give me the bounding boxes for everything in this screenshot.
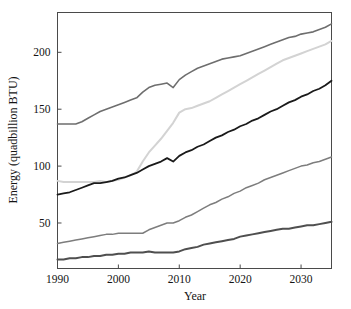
- y-tick-label: 100: [33, 160, 51, 172]
- chart-background: [0, 0, 351, 309]
- y-tick-label: 50: [39, 217, 51, 229]
- x-tick-label: 2030: [290, 273, 313, 285]
- x-axis-title: Year: [184, 289, 206, 303]
- x-tick-label: 1990: [46, 273, 69, 285]
- chart-canvas: 50100150200 19902000201020202030 Energy …: [0, 0, 351, 309]
- x-tick-label: 2000: [107, 273, 130, 285]
- x-tick-label: 2020: [229, 273, 252, 285]
- y-tick-label: 200: [33, 46, 51, 58]
- y-tick-label: 150: [33, 103, 51, 115]
- y-axis-title: Energy (quadbillion BTU): [6, 76, 20, 203]
- x-tick-label: 2010: [168, 273, 191, 285]
- energy-projection-chart: 50100150200 19902000201020202030 Energy …: [0, 0, 351, 309]
